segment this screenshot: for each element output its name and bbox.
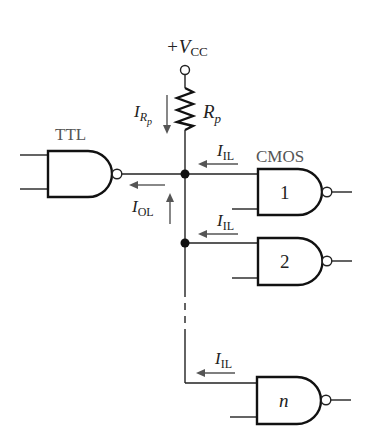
vcc-label: +VCC [166,36,208,59]
svg-text:1: 1 [280,182,290,203]
junction-dot [181,170,190,179]
cmos-gate-1: 1 [232,169,352,215]
ttl-nand-gate [20,151,122,197]
cmos-gate-2: 2 [232,238,352,285]
junction-dot [181,239,190,248]
svg-text:2: 2 [280,251,290,272]
resistor-label: Rp [202,101,222,126]
vcc-terminal [181,66,190,75]
iil-label-n: IIL [214,349,232,371]
iil-label-1: IIL [216,141,234,163]
svg-text:n: n [279,390,289,411]
circuit-diagram: +VCC Rp IRp TTL IOL CMOS IIL [0,0,371,446]
iol-label: IOL [131,197,154,219]
cmos-gate-n: n [230,377,351,424]
ttl-label: TTL [55,125,86,144]
irp-label: IRp [133,102,152,127]
pullup-resistor [177,88,193,130]
cmos-label: CMOS [256,147,304,166]
iil-label-2: IIL [216,211,234,233]
